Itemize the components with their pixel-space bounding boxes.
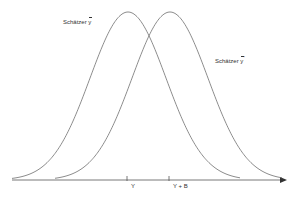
normal-distributions-diagram [0, 0, 298, 199]
label-text: Schätzer [63, 19, 87, 25]
tick-label-y-plus-b: Y + B [173, 183, 188, 189]
curve-estimator-y-star [55, 12, 282, 178]
tick-label-y: Y [131, 183, 135, 189]
curve-estimator-y [12, 12, 240, 178]
label-text: Schätzer [215, 58, 239, 64]
label-estimator-y-star: Schätzer y* [215, 58, 245, 64]
y-hat-symbol: y [88, 19, 91, 25]
y-hat-star-symbol: y* [240, 58, 245, 64]
label-estimator-y: Schätzer y [63, 19, 91, 25]
